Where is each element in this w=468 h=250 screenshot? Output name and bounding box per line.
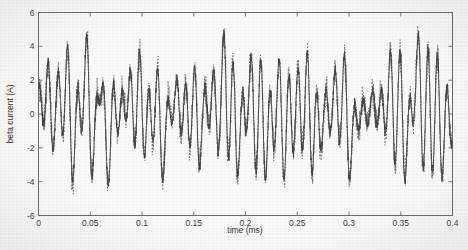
x-tick-label: 0.4	[447, 218, 459, 228]
y-tick-label: 0	[30, 109, 35, 119]
y-axis-label: beta current (A)	[5, 84, 15, 143]
x-tick-label: 0	[36, 218, 41, 228]
figure-panel: 00.050.10.150.20.250.30.350.4 -6-4-20246…	[0, 0, 468, 250]
y-tick-label: -4	[27, 177, 35, 187]
x-tick-label: 0.35	[392, 218, 409, 228]
beta-current-plot: 00.050.10.150.20.250.30.350.4 -6-4-20246…	[0, 0, 468, 250]
x-tick-label: 0.3	[343, 218, 355, 228]
x-tick-label: 0.25	[289, 218, 306, 228]
x-tick-label: 0.15	[185, 218, 202, 228]
x-tick-label: 0.1	[136, 218, 148, 228]
x-tick-label: 0.05	[82, 218, 99, 228]
x-axis-label: time (ms)	[227, 225, 263, 235]
y-tick-label: 6	[30, 8, 35, 18]
y-tick-label: -2	[27, 143, 35, 153]
y-tick-label: -6	[27, 211, 35, 221]
y-tick-label: 4	[30, 41, 35, 51]
y-tick-label: 2	[30, 75, 35, 85]
